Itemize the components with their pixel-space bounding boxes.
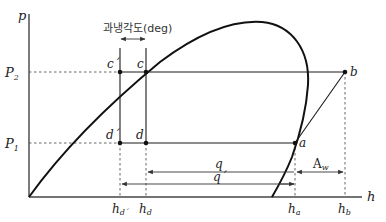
dashed-guides xyxy=(29,72,345,197)
ph-diagram: p h P2 P1 과냉각도(de xyxy=(0,0,386,222)
energy-labels: q q´ Aw xyxy=(213,157,329,184)
cycle-points xyxy=(118,70,348,146)
subcooling-label: 과냉각도(deg) xyxy=(103,22,172,35)
label-c-prime: c´ xyxy=(107,57,121,71)
pressure-labels: P2 P1 xyxy=(4,65,19,153)
saturation-curve xyxy=(29,22,308,197)
point-b xyxy=(343,70,348,75)
p2-label: P2 xyxy=(4,65,19,82)
point-a xyxy=(293,141,298,146)
tick-hd-prime: hd´ xyxy=(112,202,130,217)
label-a: a xyxy=(299,136,306,150)
p1-label: P1 xyxy=(4,136,19,153)
tick-ha: ha xyxy=(288,202,301,217)
cycle-lines xyxy=(120,48,345,143)
enthalpy-ticks: hd´ hd ha hb xyxy=(112,202,351,217)
point-d xyxy=(144,141,149,146)
compression-line xyxy=(295,72,345,143)
aw-label: Aw xyxy=(312,157,329,172)
point-c xyxy=(144,70,149,75)
tick-hd: hd xyxy=(139,202,152,217)
label-c: c xyxy=(137,57,144,71)
tick-hb: hb xyxy=(338,202,351,217)
label-d: d xyxy=(136,128,144,142)
q-label: q xyxy=(215,157,223,171)
energy-arrows xyxy=(122,172,343,184)
x-axis-label: h xyxy=(367,189,375,204)
subcooling-bracket: 과냉각도(deg) xyxy=(103,22,172,39)
y-axis-label: p xyxy=(18,8,27,23)
q-prime-label: q´ xyxy=(213,170,228,184)
point-labels: c´ c b d´ d a xyxy=(106,57,358,150)
label-b: b xyxy=(350,65,358,79)
label-d-prime: d´ xyxy=(106,128,121,142)
